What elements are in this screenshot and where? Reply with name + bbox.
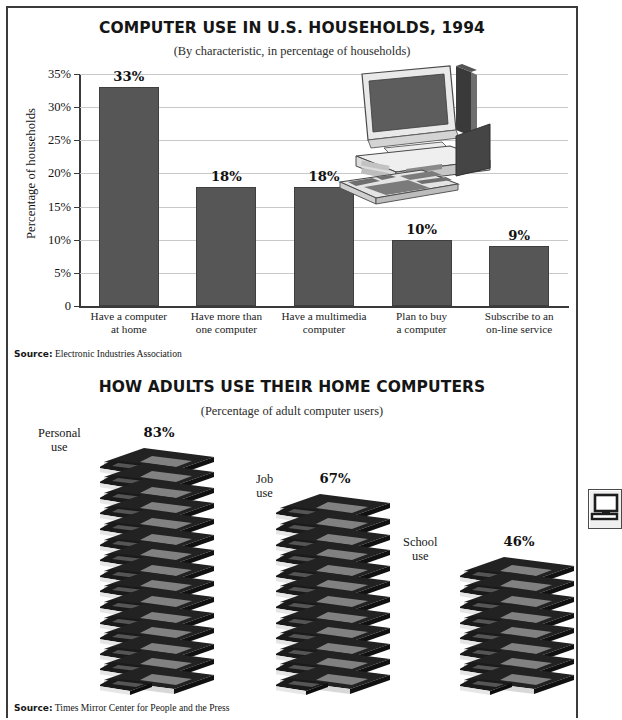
- bar: 18%: [196, 187, 256, 306]
- top-chart-title: COMPUTER USE IN U.S. HOUSEHOLDS, 1994: [8, 19, 576, 37]
- stack-category-label-line: use: [256, 486, 273, 500]
- pictogram-stack: 46%: [460, 557, 578, 700]
- x-axis-tick-label-line: computer: [275, 323, 373, 336]
- y-axis-tick-mark: [74, 240, 80, 241]
- x-axis-tick-label: Have a computerat home: [80, 310, 178, 335]
- x-axis-tick-label-line: Have more than: [178, 310, 276, 323]
- x-axis-tick-label-line: a computer: [373, 323, 471, 336]
- top-chart-source: Source: Electronic Industries Associatio…: [14, 348, 182, 359]
- bar: 33%: [99, 87, 159, 306]
- pictogram-layer-group: [276, 494, 394, 700]
- y-axis-tick-label: 30%: [48, 100, 71, 115]
- bar: 9%: [489, 246, 549, 306]
- bar: 10%: [392, 240, 452, 306]
- y-axis-tick-label: 5%: [54, 265, 71, 280]
- bar-value-label: 10%: [406, 222, 437, 237]
- x-axis-tick-label-line: one computer: [178, 323, 276, 336]
- y-axis-tick-mark: [74, 107, 80, 108]
- computer-monitor-icon[interactable]: [588, 489, 622, 529]
- y-axis-label: Percentage of households: [24, 86, 39, 261]
- bottom-chart-title: HOW ADULTS USE THEIR HOME COMPUTERS: [8, 378, 576, 396]
- y-axis-tick-label: 15%: [48, 199, 71, 214]
- x-axis-tick-label-line: Plan to buy: [373, 310, 471, 323]
- y-axis-tick-label: 0: [65, 299, 71, 314]
- computer-layer-icon: [276, 666, 394, 700]
- x-axis-line: [79, 306, 569, 308]
- bar-value-label: 18%: [211, 169, 242, 184]
- top-chart-plot-area: Percentage of households 35%30%25%20%15%…: [8, 66, 576, 366]
- source-prefix: Source:: [14, 349, 53, 359]
- bar-value-label: 33%: [113, 69, 144, 84]
- top-chart-subtitle: (By characteristic, in percentage of hou…: [8, 44, 576, 59]
- x-axis-tick-label: Subscribe to anon-line service: [470, 310, 568, 335]
- y-axis-tick-mark: [74, 306, 80, 307]
- plot-canvas: 35%30%25%20%15%10%5%033%Have a computera…: [80, 74, 568, 306]
- pictogram-layer-group: [100, 448, 218, 700]
- y-axis-tick-mark: [74, 273, 80, 274]
- y-axis-tick-mark: [74, 173, 80, 174]
- x-axis-tick-label-line: Have a computer: [80, 310, 178, 323]
- y-axis-tick-label: 20%: [48, 166, 71, 181]
- bar-value-label: 18%: [309, 169, 340, 184]
- computer-layer-icon: [460, 666, 578, 700]
- stack-category-label-line: Job: [256, 472, 273, 486]
- stack-plot-area: 83%Personaluse67%Jobuse46%Schooluse: [8, 424, 576, 700]
- stack-category-label: Personaluse: [38, 426, 81, 454]
- y-axis-tick-label: 35%: [48, 67, 71, 82]
- pictogram-layer-group: [460, 557, 578, 700]
- y-axis-tick-label: 25%: [48, 133, 71, 148]
- gridline: [80, 74, 568, 75]
- bar: 18%: [294, 187, 354, 306]
- y-axis-tick-label: 10%: [48, 232, 71, 247]
- stack-value-label: 46%: [504, 534, 535, 549]
- stack-category-label-line: use: [38, 440, 81, 454]
- source-text: Times Mirror Center for People and the P…: [55, 702, 230, 713]
- bottom-chart-subtitle: (Percentage of adult computer users): [8, 404, 576, 419]
- x-axis-tick-label: Have more thanone computer: [178, 310, 276, 335]
- stack-category-label: Jobuse: [256, 472, 273, 500]
- pictogram-stack: 83%: [100, 448, 218, 700]
- bar-value-label: 9%: [508, 228, 530, 243]
- x-axis-tick-label-line: Subscribe to an: [470, 310, 568, 323]
- y-axis-tick-mark: [74, 74, 80, 75]
- stack-value-label: 83%: [144, 425, 175, 440]
- stack-value-label: 67%: [320, 471, 351, 486]
- computer-layer-icon: [100, 666, 218, 700]
- x-axis-tick-label-line: at home: [80, 323, 178, 336]
- stack-category-label-line: use: [403, 549, 437, 563]
- pictogram-chart-adult-use: HOW ADULTS USE THEIR HOME COMPUTERS (Per…: [8, 368, 576, 708]
- source-text: Electronic Industries Association: [55, 348, 182, 359]
- y-axis-tick-mark: [74, 207, 80, 208]
- x-axis-tick-label-line: Have a multimedia: [275, 310, 373, 323]
- stack-category-label-line: Personal: [38, 426, 81, 440]
- x-axis-tick-label: Plan to buya computer: [373, 310, 471, 335]
- source-prefix: Source:: [14, 703, 53, 713]
- bottom-chart-source: Source: Times Mirror Center for People a…: [14, 702, 230, 713]
- stack-category-label-line: School: [403, 535, 437, 549]
- pictogram-stack: 67%: [276, 494, 394, 700]
- y-axis-tick-mark: [74, 140, 80, 141]
- stack-category-label: Schooluse: [403, 535, 437, 563]
- bar-chart-computer-use: COMPUTER USE IN U.S. HOUSEHOLDS, 1994 (B…: [8, 8, 576, 363]
- x-axis-tick-label: Have a multimediacomputer: [275, 310, 373, 335]
- x-axis-tick-label-line: on-line service: [470, 323, 568, 336]
